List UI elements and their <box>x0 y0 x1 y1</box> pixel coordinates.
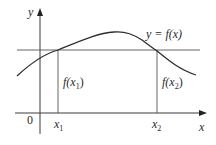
curve-label: y = f(x) <box>145 27 182 41</box>
x-axis-label: x <box>198 120 205 134</box>
diagram-canvas: y x 0 y = f(x) x1 x2 f(x1) f(x2) <box>0 0 216 145</box>
x1-label: x1 <box>53 117 63 133</box>
y-axis-label: y <box>27 5 34 19</box>
origin-label: 0 <box>27 113 33 127</box>
f-x2-label: f(x2) <box>162 75 183 91</box>
x2-label: x2 <box>151 117 161 133</box>
f-x1-label: f(x1) <box>63 75 84 91</box>
